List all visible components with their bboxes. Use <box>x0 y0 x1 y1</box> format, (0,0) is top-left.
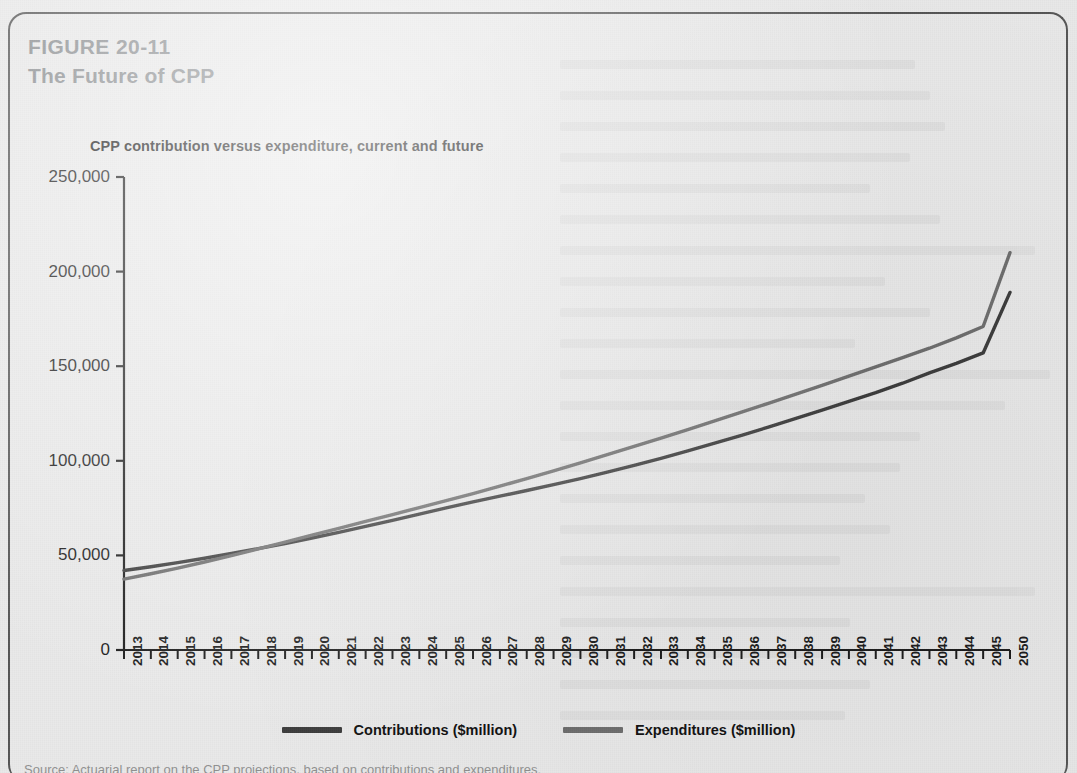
series-line <box>124 253 1010 579</box>
x-axis-tick-label: 2021 <box>344 636 359 666</box>
y-axis-tick-label: 50,000 <box>0 545 110 565</box>
x-axis-tick-label: 2042 <box>908 636 923 666</box>
x-axis-tick-label: 2040 <box>854 636 869 666</box>
x-axis-tick-label: 2024 <box>425 636 440 666</box>
chart-axes <box>116 177 1010 659</box>
x-axis-tick-label: 2019 <box>291 636 306 666</box>
x-axis-tick-label: 2016 <box>210 636 225 666</box>
chart-series <box>124 253 1010 579</box>
x-axis-tick-label: 2044 <box>962 636 977 666</box>
series-line <box>124 292 1010 570</box>
legend-item: Contributions ($million) <box>282 722 518 738</box>
x-axis-tick-label: 2035 <box>720 636 735 666</box>
x-axis-tick-label: 2033 <box>666 636 681 666</box>
x-axis-tick-label: 2014 <box>156 636 171 666</box>
x-axis-tick-label: 2027 <box>505 636 520 666</box>
x-axis-tick-label: 2045 <box>989 636 1004 666</box>
legend-label: Expenditures ($million) <box>635 722 795 738</box>
line-chart: 050,000100,000150,000200,000250,000 2013… <box>0 0 1077 773</box>
x-axis-tick-label: 2022 <box>371 636 386 666</box>
x-axis-tick-label: 2017 <box>237 636 252 666</box>
x-axis-tick-label: 2041 <box>881 636 896 666</box>
x-axis-tick-label: 2030 <box>586 636 601 666</box>
x-axis-tick-label: 2018 <box>264 636 279 666</box>
legend-line-swatch-icon <box>282 727 342 733</box>
y-axis-tick-label: 200,000 <box>0 262 110 282</box>
figure-source-note: Source: Actuarial report on the CPP proj… <box>24 762 1054 773</box>
x-axis-tick-label: 2038 <box>801 636 816 666</box>
x-axis-tick-label: 2032 <box>640 636 655 666</box>
x-axis-tick-label: 2025 <box>452 636 467 666</box>
y-axis-tick-label: 100,000 <box>0 451 110 471</box>
chart-legend: Contributions ($million)Expenditures ($m… <box>0 722 1077 738</box>
x-axis-tick-label: 2028 <box>532 636 547 666</box>
x-axis-tick-label: 2013 <box>130 636 145 666</box>
y-axis-tick-label: 150,000 <box>0 356 110 376</box>
x-axis-tick-label: 2039 <box>828 636 843 666</box>
x-axis-tick-label: 2023 <box>398 636 413 666</box>
x-axis-tick-label: 2020 <box>317 636 332 666</box>
x-axis-tick-label: 2026 <box>479 636 494 666</box>
x-axis-tick-label: 2043 <box>935 636 950 666</box>
y-axis-tick-label: 250,000 <box>0 167 110 187</box>
y-axis-tick-label: 0 <box>0 640 110 660</box>
x-axis-tick-label: 2034 <box>693 636 708 666</box>
legend-label: Contributions ($million) <box>354 722 518 738</box>
x-axis-tick-label: 2029 <box>559 636 574 666</box>
x-axis-tick-label: 2031 <box>613 636 628 666</box>
x-axis-tick-label: 2036 <box>747 636 762 666</box>
x-axis-tick-label: 2037 <box>774 636 789 666</box>
x-axis-tick-label: 2015 <box>183 636 198 666</box>
x-axis-tick-label: 2050 <box>1016 636 1031 666</box>
legend-line-swatch-icon <box>563 727 623 733</box>
legend-item: Expenditures ($million) <box>563 722 795 738</box>
